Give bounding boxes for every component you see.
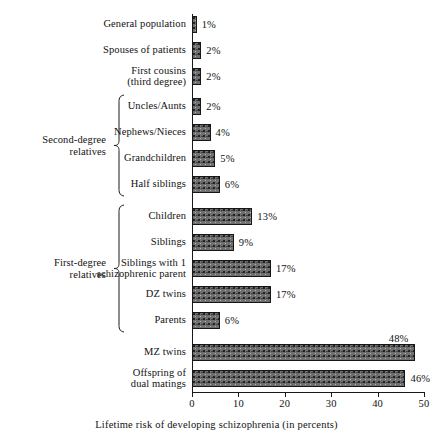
bar-row: 2% bbox=[0, 98, 433, 115]
bar-unclesaunts bbox=[192, 98, 201, 115]
bar-mz-twins bbox=[192, 344, 415, 361]
bar-grandchildren bbox=[192, 150, 215, 167]
bar-row: 46% bbox=[0, 370, 433, 387]
category-label: Offspring of dual matings bbox=[131, 367, 186, 390]
category-label: MZ twins bbox=[144, 346, 186, 358]
bar-value-label: 4% bbox=[216, 124, 230, 141]
bar-row: 2% bbox=[0, 42, 433, 59]
bar-value-label: 6% bbox=[225, 312, 239, 329]
bar-dz-twins bbox=[192, 286, 271, 303]
curly-brace-icon bbox=[113, 204, 125, 333]
group-label: First-degree relatives bbox=[14, 257, 106, 281]
bar-first-cousins-third-degree bbox=[192, 68, 201, 85]
bar-row: 6% bbox=[0, 312, 433, 329]
bar-siblings-with-1-schizophrenic-parent bbox=[192, 260, 271, 277]
x-tick-label-20: 20 bbox=[279, 398, 290, 409]
bar-general-population bbox=[192, 16, 197, 33]
bar-value-label: 5% bbox=[220, 150, 234, 167]
curly-brace-icon bbox=[113, 94, 125, 197]
bar-value-label: 17% bbox=[276, 260, 296, 277]
bar-value-label: 46% bbox=[410, 370, 430, 387]
bar-offspring-of-dual-matings bbox=[192, 370, 405, 387]
x-tick-label-50: 50 bbox=[419, 398, 430, 409]
x-tick-label-10: 10 bbox=[233, 398, 244, 409]
x-tick-20 bbox=[285, 392, 286, 397]
bar-nephewsnieces bbox=[192, 124, 211, 141]
bar-row: 1% bbox=[0, 16, 433, 33]
category-label: General population bbox=[103, 18, 186, 30]
category-label: Children bbox=[148, 210, 186, 222]
x-tick-label-0: 0 bbox=[189, 398, 194, 409]
bar-value-label: 9% bbox=[239, 234, 253, 251]
category-label: Parents bbox=[154, 314, 186, 326]
bar-row: 6% bbox=[0, 176, 433, 193]
x-axis-line bbox=[192, 392, 425, 393]
category-label: Uncles/Aunts bbox=[128, 100, 186, 112]
category-label: Grandchildren bbox=[124, 152, 186, 164]
category-label: Siblings bbox=[151, 236, 186, 248]
schizophrenia-risk-bar-chart: 01020304050 1%2%2%2%4%5%6%13%9%17%17%6%4… bbox=[0, 0, 433, 443]
x-tick-10 bbox=[238, 392, 239, 397]
x-tick-30 bbox=[331, 392, 332, 397]
x-tick-label-30: 30 bbox=[326, 398, 337, 409]
bar-value-label: 13% bbox=[257, 208, 277, 225]
bar-row: 17% bbox=[0, 286, 433, 303]
bar-value-label: 2% bbox=[206, 68, 220, 85]
bar-value-label: 48% bbox=[389, 330, 409, 347]
bar-siblings bbox=[192, 234, 234, 251]
bar-row: 2% bbox=[0, 68, 433, 85]
bar-value-label: 2% bbox=[206, 42, 220, 59]
bar-row: 13% bbox=[0, 208, 433, 225]
bar-value-label: 6% bbox=[225, 176, 239, 193]
x-tick-50 bbox=[424, 392, 425, 397]
bar-parents bbox=[192, 312, 220, 329]
bar-value-label: 1% bbox=[202, 16, 216, 33]
bar-row: 9% bbox=[0, 234, 433, 251]
x-tick-0 bbox=[192, 392, 193, 397]
category-label: First cousins (third degree) bbox=[127, 65, 186, 88]
bar-children bbox=[192, 208, 252, 225]
bar-spouses-of-patients bbox=[192, 42, 201, 59]
category-label: Siblings with 1 schizophrenic parent bbox=[97, 257, 186, 280]
category-label: Spouses of patients bbox=[103, 44, 186, 56]
group-label: Second-degree relatives bbox=[14, 134, 106, 158]
x-axis-title: Lifetime risk of developing schizophreni… bbox=[0, 419, 433, 430]
category-label: Half siblings bbox=[131, 178, 186, 190]
bar-row: 48% bbox=[0, 344, 433, 361]
bar-half-siblings bbox=[192, 176, 220, 193]
x-tick-40 bbox=[378, 392, 379, 397]
bar-value-label: 17% bbox=[276, 286, 296, 303]
bar-value-label: 2% bbox=[206, 98, 220, 115]
x-tick-label-40: 40 bbox=[372, 398, 383, 409]
category-label: DZ twins bbox=[146, 288, 186, 300]
